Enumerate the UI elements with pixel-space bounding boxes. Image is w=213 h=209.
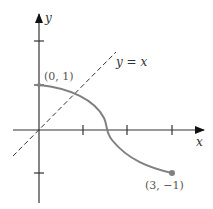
reference-line-label: y = x: [115, 55, 147, 69]
start-point-label: (0, 1): [44, 70, 74, 83]
graph: y x (0, 1) (3, −1) y = x: [0, 0, 213, 209]
y-axis-label: y: [44, 11, 52, 25]
curve-end-point: [169, 170, 175, 176]
x-axis-label: x: [196, 135, 203, 149]
reference-line-y-equals-x: [13, 52, 116, 156]
end-point-label: (3, −1): [145, 179, 184, 192]
curve: [39, 85, 172, 173]
curve-start-point: [37, 83, 41, 87]
